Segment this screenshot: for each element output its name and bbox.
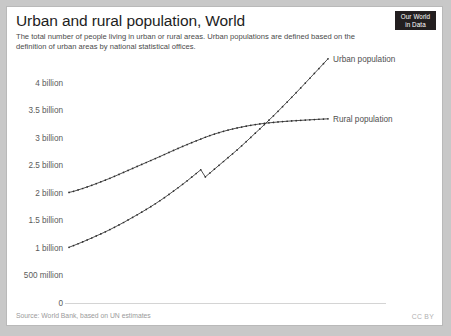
series-point [77,243,79,245]
series-point [268,119,270,121]
series-point [95,183,97,185]
series-point [141,164,143,166]
y-axis-tick-label: 2 billion [35,189,63,198]
series-point [273,122,275,124]
chart-card: Urban and rural population, World The to… [6,6,443,326]
series-point [141,211,143,213]
series-point [123,172,125,174]
series-point [250,137,252,139]
series-point [309,119,311,121]
series-point [168,194,170,196]
series-point [304,119,306,121]
series-point [159,200,161,202]
series-point [127,219,129,221]
series-point [218,165,220,167]
series-point [186,144,188,146]
y-axis-tick-label: 0 [58,299,63,308]
series-point [105,179,107,181]
series-point [254,124,256,126]
series-point [200,169,202,171]
series-label-2[interactable]: Rural population [333,115,393,124]
series-point [300,120,302,122]
series-point [300,87,302,89]
series-point [100,181,102,183]
series-point [236,127,238,129]
license-note[interactable]: CC BY [412,313,434,320]
series-point [182,184,184,186]
series-point [259,123,261,125]
series-point [314,73,316,75]
series-point [282,121,284,123]
series-point [309,77,311,79]
series-point [223,130,225,132]
series-point [132,168,134,170]
series-point [77,189,79,191]
series-point [241,126,243,128]
series-point [109,229,111,231]
series-point [86,186,88,188]
series-point [68,192,70,194]
series-point [259,128,261,130]
series-point [150,160,152,162]
series-point [218,132,220,134]
series-point [105,231,107,233]
plot-area: 0500 million1 billion1.5 billion2 billio… [7,51,443,309]
series-point [295,120,297,122]
series-point [286,101,288,103]
series-point [145,209,147,211]
series-point [136,214,138,216]
y-axis-tick-label: 1 billion [35,244,63,253]
series-point [195,140,197,142]
series-point [91,184,93,186]
series-label-1[interactable]: Urban population [333,55,396,64]
chart-title: Urban and rural population, World [16,12,434,30]
series-point [327,118,329,120]
y-axis-tick-label: 500 million [24,271,64,280]
series-point [209,135,211,137]
series-point [277,121,279,123]
series-point [177,187,179,189]
series-point [254,132,256,134]
series-point [236,149,238,151]
series-point [132,217,134,219]
series-point [277,110,279,112]
series-point [191,176,193,178]
logo-line-1: Our World [395,13,436,21]
chart-header: Urban and rural population, World The to… [16,12,434,51]
series-point [150,206,152,208]
y-axis-tick-label: 4 billion [35,79,63,88]
series-point [73,245,75,247]
series-point [209,172,211,174]
series-line-2[interactable] [69,119,328,193]
series-point [177,148,179,150]
y-axis-tick-label: 1.5 billion [28,216,63,225]
series-point [273,115,275,117]
logo-line-2: in Data [395,21,436,29]
series-point [123,222,125,224]
series-point [304,82,306,84]
series-point [286,120,288,122]
series-point [282,106,284,108]
series-point [100,233,102,235]
series-point [232,153,234,155]
series-point [245,141,247,143]
series-point [227,129,229,131]
line-chart-svg: 0500 million1 billion1.5 billion2 billio… [7,51,443,309]
series-point [118,174,120,176]
series-point [295,92,297,94]
our-world-in-data-logo[interactable]: Our World in Data [395,11,436,30]
series-point [268,122,270,124]
series-point [241,145,243,147]
series-point [232,128,234,130]
series-point [173,190,175,192]
series-line-1[interactable] [69,59,328,247]
series-point [214,133,216,135]
series-point [323,63,325,65]
series-point [245,125,247,127]
series-point [318,68,320,70]
series-point [204,136,206,138]
series-point [73,190,75,192]
series-point [227,157,229,159]
series-point [91,237,93,239]
series-point [114,226,116,228]
